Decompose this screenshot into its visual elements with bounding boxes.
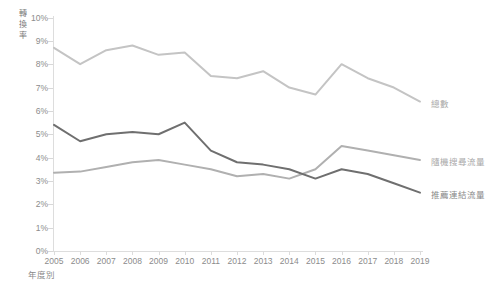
- x-axis-title: 年度別: [28, 268, 55, 280]
- y-tick-mark: [48, 18, 53, 19]
- y-tick-mark: [48, 64, 53, 65]
- plot-area: [0, 0, 503, 300]
- series-line: [54, 123, 420, 193]
- conversion-rate-line-chart: 轉 換 率 0%1%2%3%4%5%6%7%8%9%10% 2005200620…: [0, 0, 503, 300]
- y-tick-mark: [48, 88, 53, 89]
- y-tick-mark: [48, 181, 53, 182]
- y-tick-mark: [48, 134, 53, 135]
- y-tick-mark: [48, 228, 53, 229]
- y-tick-mark: [48, 111, 53, 112]
- y-tick-mark: [48, 158, 53, 159]
- legend-item-3: 推薦連結流量: [431, 188, 485, 200]
- y-tick-mark: [48, 204, 53, 205]
- legend-item-1: 總數: [431, 97, 449, 109]
- series-line: [54, 46, 420, 102]
- y-tick-mark: [48, 251, 53, 252]
- y-tick-mark: [48, 41, 53, 42]
- legend-item-2: 隨機搜尋流量: [431, 155, 485, 167]
